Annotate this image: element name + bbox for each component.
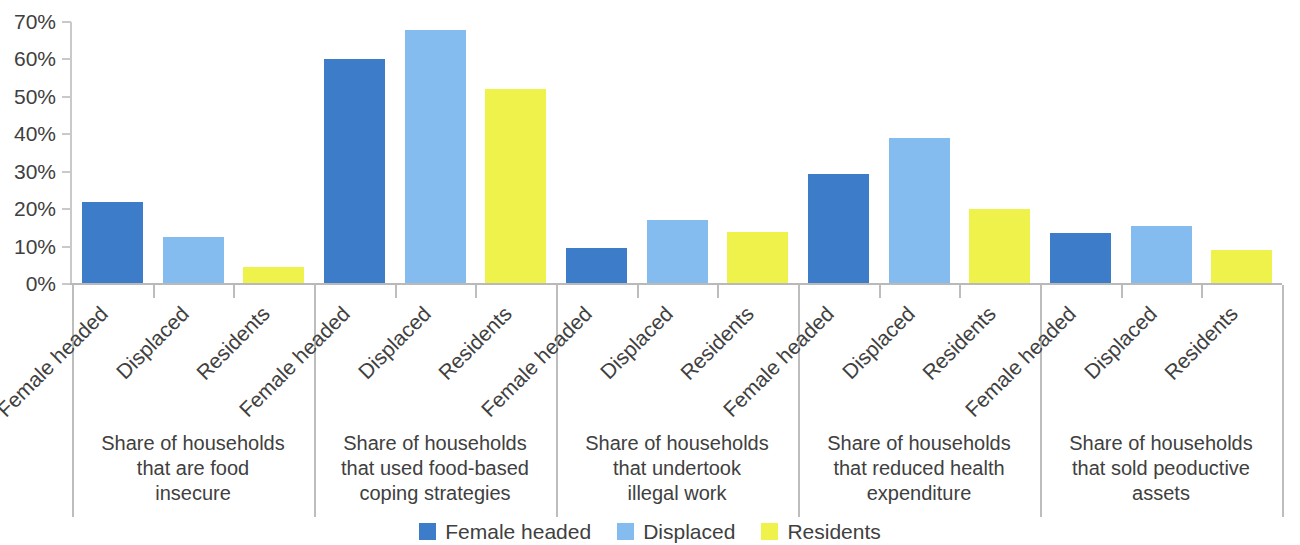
y-axis-tick-label: 0% xyxy=(26,273,56,294)
y-axis-tick-mark xyxy=(62,246,71,248)
x-axis-minor-tick xyxy=(1121,285,1123,298)
group-label-line: that are food xyxy=(101,456,284,481)
legend-item[interactable]: Female headed xyxy=(419,521,591,542)
x-axis-group-label: Share of householdsthat undertookillegal… xyxy=(556,425,798,517)
x-axis-minor-tick xyxy=(1201,285,1203,298)
group-label-line: that undertook xyxy=(585,456,768,481)
bar xyxy=(1131,226,1192,284)
y-axis-tick-label: 10% xyxy=(14,236,56,257)
x-axis-line xyxy=(70,283,1282,285)
legend-label: Residents xyxy=(787,521,880,542)
bar xyxy=(243,267,304,284)
y-axis-tick-label: 30% xyxy=(14,161,56,182)
y-axis-tick-label: 70% xyxy=(14,11,56,32)
y-axis-tick-label: 40% xyxy=(14,123,56,144)
x-axis-minor-tick xyxy=(959,285,961,298)
legend-item[interactable]: Displaced xyxy=(617,521,735,542)
bar xyxy=(1211,250,1272,284)
x-axis-minor-tick xyxy=(637,285,639,298)
bar xyxy=(566,248,627,284)
group-label-line: that sold peoductive xyxy=(1069,456,1252,481)
y-axis-tick-mark xyxy=(62,21,71,23)
group-label-line: that reduced health xyxy=(827,456,1010,481)
group-label-line: Share of households xyxy=(341,431,529,456)
group-label-line: insecure xyxy=(101,481,284,506)
y-axis-tick-mark xyxy=(62,58,71,60)
group-label-line: assets xyxy=(1069,481,1252,506)
bar xyxy=(969,209,1030,284)
bar xyxy=(163,237,224,284)
x-axis-minor-tick xyxy=(879,285,881,298)
x-axis-minor-tick xyxy=(395,285,397,298)
legend-label: Displaced xyxy=(643,521,735,542)
bar xyxy=(727,232,788,284)
y-axis-tick-mark xyxy=(62,171,71,173)
y-axis-tick-mark xyxy=(62,208,71,210)
x-axis-group-label: Share of householdsthat are foodinsecure xyxy=(72,425,314,517)
bar xyxy=(889,138,950,284)
legend-item[interactable]: Residents xyxy=(761,521,880,542)
bar xyxy=(82,202,143,284)
chart-legend: Female headedDisplacedResidents xyxy=(0,518,1300,545)
bar xyxy=(485,89,546,284)
x-axis-minor-tick xyxy=(233,285,235,298)
group-label-line: Share of households xyxy=(827,431,1010,456)
bar xyxy=(808,174,869,284)
bar xyxy=(405,30,466,285)
bar xyxy=(324,59,385,284)
group-label-line: illegal work xyxy=(585,481,768,506)
legend-swatch-icon xyxy=(761,523,778,540)
x-axis-minor-tick xyxy=(153,285,155,298)
legend-swatch-icon xyxy=(419,523,436,540)
group-label-line: that used food-based xyxy=(341,456,529,481)
y-axis-tick-label: 20% xyxy=(14,198,56,219)
y-axis-tick-mark xyxy=(62,96,71,98)
x-axis-minor-tick xyxy=(475,285,477,298)
group-label-line: Share of households xyxy=(585,431,768,456)
x-axis-group-label: Share of householdsthat used food-basedc… xyxy=(314,425,556,517)
y-axis-tick-label: 50% xyxy=(14,86,56,107)
legend-label: Female headed xyxy=(445,521,591,542)
group-label-line: coping strategies xyxy=(341,481,529,506)
x-axis-group-label: Share of householdsthat sold peoductivea… xyxy=(1040,425,1282,517)
bar xyxy=(647,220,708,284)
x-axis-minor-tick xyxy=(717,285,719,298)
group-label-line: expenditure xyxy=(827,481,1010,506)
plot-area xyxy=(72,22,1282,284)
x-axis-group-label: Share of householdsthat reduced healthex… xyxy=(798,425,1040,517)
bar-chart: 0%10%20%30%40%50%60%70% Female headedDis… xyxy=(0,0,1300,545)
group-label-line: Share of households xyxy=(1069,431,1252,456)
x-axis-group-separator xyxy=(1282,285,1284,517)
y-axis-tick-label: 60% xyxy=(14,48,56,69)
y-axis: 0%10%20%30%40%50%60%70% xyxy=(0,0,62,300)
bar xyxy=(1050,233,1111,284)
y-axis-tick-mark xyxy=(62,133,71,135)
legend-swatch-icon xyxy=(617,523,634,540)
group-label-line: Share of households xyxy=(101,431,284,456)
